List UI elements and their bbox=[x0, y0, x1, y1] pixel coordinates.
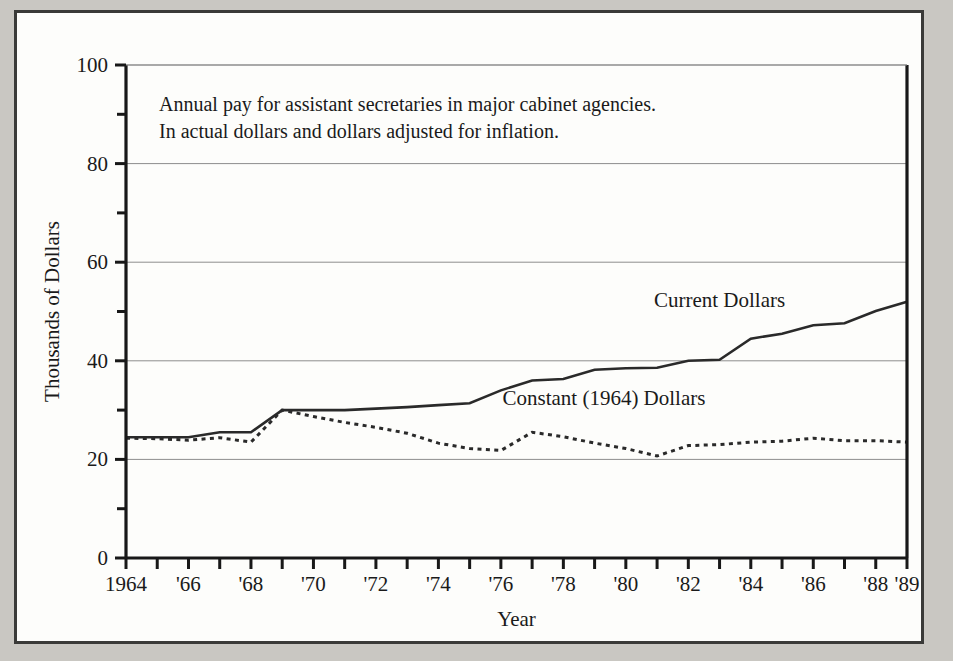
y-tick-label-100: 100 bbox=[77, 53, 109, 77]
y-tick-label-80: 80 bbox=[87, 152, 108, 176]
chart-frame: 0204060801001964'66'68'70'72'74'76'78'80… bbox=[14, 10, 924, 644]
chart-annotation-line-1: Annual pay for assistant secretaries in … bbox=[159, 93, 656, 116]
y-tick-label-40: 40 bbox=[87, 349, 108, 373]
x-tick-label-1968: '68 bbox=[239, 572, 264, 596]
annotation-group: Annual pay for assistant secretaries in … bbox=[159, 93, 656, 143]
x-tick-label-1988: '88 bbox=[863, 572, 888, 596]
series-line-current-dollars bbox=[126, 302, 907, 438]
x-tick-label-1974: '74 bbox=[426, 572, 451, 596]
x-tick-label-1982: '82 bbox=[676, 572, 701, 596]
data-series-group bbox=[126, 302, 907, 456]
y-tick-label-0: 0 bbox=[98, 546, 109, 570]
x-axis-title: Year bbox=[497, 607, 536, 631]
chart-annotation-line-2: In actual dollars and dollars adjusted f… bbox=[159, 120, 559, 143]
y-tick-label-60: 60 bbox=[87, 250, 108, 274]
x-tick-label-1976: '76 bbox=[488, 572, 513, 596]
x-tick-label-1989: '89 bbox=[895, 572, 920, 596]
y-tick-label-20: 20 bbox=[87, 447, 108, 471]
x-tick-label-1972: '72 bbox=[364, 572, 389, 596]
x-tick-label-1984: '84 bbox=[738, 572, 763, 596]
x-tick-label-1970: '70 bbox=[301, 572, 326, 596]
series-label-current-dollars: Current Dollars bbox=[654, 288, 785, 312]
x-tick-label-1964: 1964 bbox=[105, 572, 148, 596]
x-tick-label-1986: '86 bbox=[801, 572, 826, 596]
x-tick-label-1966: '66 bbox=[176, 572, 201, 596]
chart-plot-area: 0204060801001964'66'68'70'72'74'76'78'80… bbox=[17, 13, 927, 647]
x-tick-label-1978: '78 bbox=[551, 572, 576, 596]
series-inline-labels-group: Current DollarsConstant (1964) Dollars bbox=[502, 288, 785, 411]
line-chart-svg: 0204060801001964'66'68'70'72'74'76'78'80… bbox=[17, 13, 927, 647]
y-axis-title: Thousands of Dollars bbox=[40, 221, 64, 402]
series-label-constant-1964-dollars: Constant (1964) Dollars bbox=[502, 386, 705, 410]
x-tick-label-1980: '80 bbox=[613, 572, 638, 596]
